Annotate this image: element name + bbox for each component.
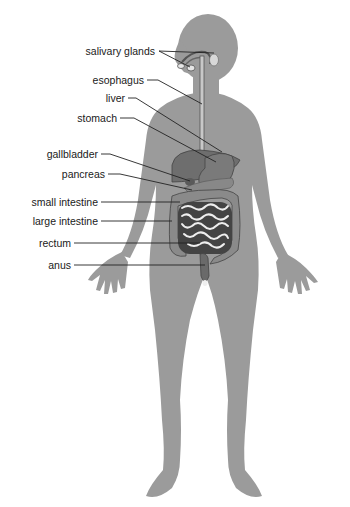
anus-organ xyxy=(203,280,208,286)
label-large-intestine: large intestine xyxy=(33,215,98,227)
label-small-intestine: small intestine xyxy=(31,196,98,208)
rectum-organ xyxy=(200,254,209,283)
label-liver: liver xyxy=(106,92,125,104)
label-esophagus: esophagus xyxy=(93,74,144,86)
label-pancreas: pancreas xyxy=(62,168,105,180)
label-salivary-glands: salivary glands xyxy=(86,45,155,57)
label-anus: anus xyxy=(48,259,71,271)
label-rectum: rectum xyxy=(39,237,71,249)
small-intestine-organ xyxy=(178,202,232,254)
esophagus-organ xyxy=(200,56,204,164)
digestive-system-diagram: salivary glands esophagus liver stomach … xyxy=(0,0,350,507)
label-stomach: stomach xyxy=(77,112,117,124)
body-silhouette xyxy=(0,0,350,507)
label-gallbladder: gallbladder xyxy=(47,148,98,160)
